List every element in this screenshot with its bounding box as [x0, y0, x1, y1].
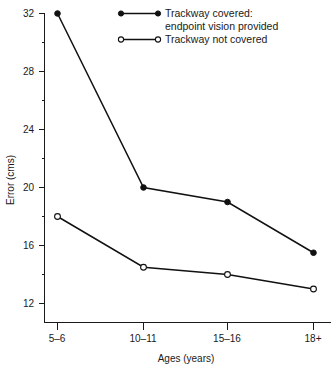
chart-legend: Trackway covered: endpoint vision provid… [118, 7, 278, 45]
line-chart-figure: 32 28 24 20 16 12 Error (cms) 5–6 10–11 … [0, 0, 335, 368]
data-point-covered-0 [55, 11, 61, 17]
x-axis-title: Ages (years) [158, 353, 215, 364]
y-tick-label-32: 32 [23, 8, 35, 19]
chart-canvas: 32 28 24 20 16 12 Error (cms) 5–6 10–11 … [0, 0, 335, 368]
series-line-covered [58, 14, 314, 253]
y-axis-title: Error (cms) [5, 155, 16, 205]
series-trackway-covered [55, 11, 317, 256]
data-point-covered-2 [225, 199, 231, 205]
y-tick-label-24: 24 [23, 124, 35, 135]
series-line-not-covered [58, 217, 314, 290]
y-tick-label-20: 20 [23, 182, 35, 193]
y-tick-label-12: 12 [23, 298, 35, 309]
data-point-covered-1 [141, 185, 147, 191]
data-point-not-covered-3 [311, 286, 317, 292]
legend-marker-filled-right [155, 11, 160, 16]
legend-label-covered-line1: Trackway covered: [165, 7, 253, 19]
axis-lines [45, 14, 331, 323]
legend-label-covered-line2: endpoint vision provided [165, 20, 278, 32]
y-tick-label-28: 28 [23, 66, 35, 77]
x-tick-label-18plus: 18+ [305, 333, 322, 344]
y-tick-label-16: 16 [23, 240, 35, 251]
legend-entry-covered: Trackway covered: endpoint vision provid… [118, 7, 278, 32]
data-point-not-covered-1 [141, 264, 147, 270]
x-tick-label-5-6: 5–6 [49, 333, 66, 344]
series-trackway-not-covered [55, 214, 317, 292]
x-tick-label-15-16: 15–16 [213, 333, 241, 344]
legend-marker-filled-left [118, 11, 123, 16]
series-markers-not-covered [55, 214, 317, 292]
legend-label-not-covered: Trackway not covered [165, 33, 267, 45]
data-point-covered-3 [311, 250, 317, 256]
legend-entry-not-covered: Trackway not covered [118, 33, 267, 45]
data-point-not-covered-2 [225, 272, 231, 278]
data-point-not-covered-0 [55, 214, 61, 220]
x-tick-label-10-11: 10–11 [129, 333, 157, 344]
x-axis-ticks [58, 323, 314, 330]
legend-marker-open-left [118, 37, 123, 42]
series-markers-covered [55, 11, 317, 256]
legend-marker-open-right [155, 37, 160, 42]
